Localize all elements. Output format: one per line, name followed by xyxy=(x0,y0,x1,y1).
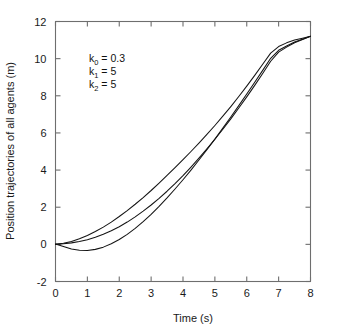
y-axis-tick-labels: -2024681012 xyxy=(34,16,46,288)
x-tick-label: 0 xyxy=(52,287,58,299)
annotation-line-3: k2 = 5 xyxy=(89,78,116,93)
x-tick-label: 4 xyxy=(180,287,186,299)
annotation-2-rest: = 5 xyxy=(98,65,116,77)
y-axis-label: Position trajectories of all agents (m) xyxy=(4,62,16,240)
x-tick-label: 5 xyxy=(212,287,218,299)
parameter-annotation: k0 = 0.3 k1 = 5 k2 = 5 xyxy=(89,52,125,93)
y-tick-label: 2 xyxy=(40,201,46,213)
y-tick-label: 10 xyxy=(34,53,46,65)
y-tick-label: 12 xyxy=(34,16,46,28)
x-tick-label: 8 xyxy=(307,287,313,299)
x-tick-label: 3 xyxy=(148,287,154,299)
x-axis-tick-labels: 012345678 xyxy=(52,287,313,299)
x-tick-label: 1 xyxy=(84,287,90,299)
y-tick-label: 0 xyxy=(40,238,46,250)
x-tick-label: 7 xyxy=(276,287,282,299)
y-tick-label: 4 xyxy=(40,164,46,176)
y-tick-label: 8 xyxy=(40,90,46,102)
annotation-3-rest: = 5 xyxy=(98,78,116,90)
x-tick-label: 2 xyxy=(116,287,122,299)
chart-plot: 012345678 -2024681012 Time (s) Position … xyxy=(0,0,338,328)
annotation-1-rest: = 0.3 xyxy=(98,52,125,64)
y-tick-label: 6 xyxy=(40,127,46,139)
x-tick-label: 6 xyxy=(244,287,250,299)
figure-container: 012345678 -2024681012 Time (s) Position … xyxy=(0,0,338,328)
y-tick-label: -2 xyxy=(37,276,47,288)
x-axis-label: Time (s) xyxy=(173,312,213,324)
